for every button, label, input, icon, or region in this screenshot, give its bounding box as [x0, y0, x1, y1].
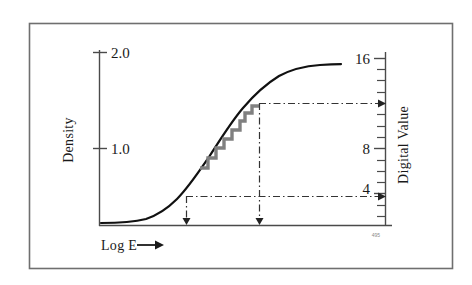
right-axis-title: Digital Value	[396, 106, 411, 184]
right-axis-tick-label-8: 8	[363, 141, 371, 157]
right-axis-tick-label-4: 4	[363, 181, 371, 197]
characteristic-curve-figure: 2.0 1.0 Density Log E	[0, 0, 472, 285]
left-axis-tick-label-1: 1.0	[111, 141, 130, 157]
figure-root: 2.0 1.0 Density Log E	[0, 0, 472, 285]
x-axis-title: Log E	[101, 238, 137, 253]
left-axis-tick-label-2: 2.0	[111, 45, 130, 61]
left-axis-title: Density	[61, 117, 76, 163]
right-axis-tick-label-16: 16	[355, 51, 371, 67]
credit-mark: 495	[372, 232, 381, 238]
